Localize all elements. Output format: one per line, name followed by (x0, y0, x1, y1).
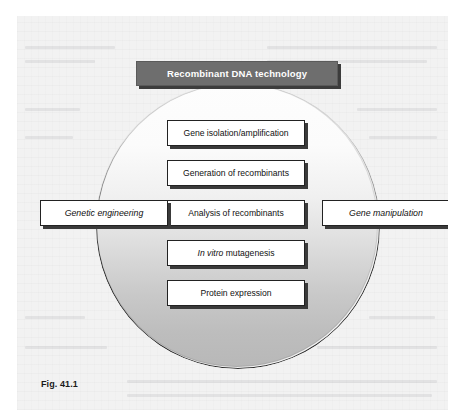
stage-box-label-italic: In vitro (198, 248, 224, 258)
figure-panel: Recombinant DNA technology Gene isolatio… (17, 16, 448, 410)
stage-box-in-vitro-mutagenesis: In vitro mutagenesis (167, 240, 305, 266)
stage-box-label: Protein expression (200, 288, 271, 298)
ghost-text-line (127, 394, 432, 397)
ghost-text-line (357, 108, 437, 111)
ghost-text-line (25, 108, 80, 111)
stage-box-protein-expression: Protein expression (167, 280, 305, 306)
side-box-gene-manipulation: Gene manipulation (322, 200, 448, 226)
stage-box-label: Generation of recombinants (183, 168, 289, 178)
ghost-text-line (127, 380, 437, 383)
stage-box-label-rest: mutagenesis (223, 248, 274, 258)
ghost-text-line (369, 136, 437, 139)
stage-box-generation-of-recombinants: Generation of recombinants (167, 160, 305, 186)
side-box-genetic-engineering: Genetic engineering (40, 200, 168, 226)
ghost-text-line (25, 46, 115, 49)
side-box-label: Gene manipulation (349, 208, 423, 218)
header-bar-label: Recombinant DNA technology (167, 68, 307, 79)
figure-caption: Fig. 41.1 (41, 379, 78, 389)
side-box-label: Genetic engineering (65, 208, 144, 218)
header-bar-recombinant-dna-technology: Recombinant DNA technology (136, 61, 338, 86)
ghost-text-line (25, 60, 95, 63)
stage-box-gene-isolation-amplification: Gene isolation/amplification (167, 120, 305, 146)
stage-box-analysis-of-recombinants: Analysis of recombinants (167, 200, 305, 226)
stage-box-label: Analysis of recombinants (188, 208, 284, 218)
ghost-text-line (317, 346, 437, 349)
ghost-text-line (369, 316, 435, 319)
ghost-text-line (25, 346, 107, 349)
ghost-text-line (25, 316, 85, 319)
ghost-text-line (25, 136, 73, 139)
ghost-text-line (267, 46, 437, 49)
stage-box-label: Gene isolation/amplification (183, 128, 288, 138)
stage-box-label: In vitro mutagenesis (198, 248, 275, 258)
